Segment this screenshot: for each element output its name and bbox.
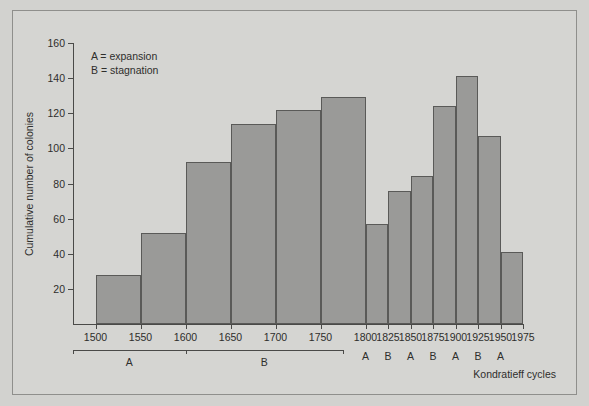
- y-tick-label: 60: [53, 213, 65, 225]
- x-tick-mark-1900: [456, 324, 457, 329]
- bar-1875: [433, 106, 456, 324]
- cycle-bracket-end: [343, 350, 344, 354]
- x-tick-label-1500: 1500: [84, 331, 107, 343]
- x-tick-label-1850: 1850: [399, 331, 422, 343]
- bar-1800: [366, 224, 389, 324]
- x-tick-mark-1500: [96, 324, 97, 329]
- cycle-bracket-label-A: A: [126, 356, 133, 368]
- x-tick-mark-1650: [231, 324, 232, 329]
- x-tick-label-1750: 1750: [309, 331, 332, 343]
- bar-1650: [231, 124, 276, 324]
- y-tick-mark: [68, 184, 73, 185]
- y-tick-mark: [68, 148, 73, 149]
- x-tick-mark-1950: [501, 324, 502, 329]
- bar-1925: [478, 136, 501, 324]
- x-tick-mark-1825: [388, 324, 389, 329]
- x-tick-mark-1800: [366, 324, 367, 329]
- y-tick-mark: [68, 254, 73, 255]
- y-tick-mark: [68, 113, 73, 114]
- x-tick-label-1600: 1600: [174, 331, 197, 343]
- cycle-letter-1800: A: [362, 350, 369, 362]
- y-axis-line: [73, 43, 74, 324]
- cycle-bracket-B: [186, 350, 344, 351]
- chart-figure: A = expansion B = stagnation Cumulative …: [12, 10, 577, 395]
- bar-1850: [411, 176, 434, 324]
- y-tick-label: 40: [53, 248, 65, 260]
- bar-1500: [96, 275, 141, 324]
- cycle-letter-1950: A: [497, 350, 504, 362]
- y-tick-label: 160: [47, 37, 65, 49]
- cycle-letter-1825: B: [384, 350, 391, 362]
- cycle-bracket-end: [186, 350, 187, 354]
- x-tick-label-1825: 1825: [376, 331, 399, 343]
- x-tick-mark-1550: [141, 324, 142, 329]
- y-tick-label: 120: [47, 107, 65, 119]
- plot-area: Cumulative number of colonies 2040608010…: [73, 43, 523, 324]
- x-tick-label-1900: 1900: [444, 331, 467, 343]
- y-tick-label: 80: [53, 178, 65, 190]
- y-tick-label: 140: [47, 72, 65, 84]
- x-tick-mark-1700: [276, 324, 277, 329]
- cycle-letter-1925: B: [474, 350, 481, 362]
- cycle-bracket-label-B: B: [261, 356, 268, 368]
- y-tick-label: 100: [47, 142, 65, 154]
- x-axis-title: Kondratieff cycles: [473, 368, 556, 380]
- y-tick-mark: [68, 78, 73, 79]
- x-tick-label-1650: 1650: [219, 331, 242, 343]
- y-tick-mark: [68, 219, 73, 220]
- bar-1750: [321, 97, 366, 324]
- x-tick-mark-1875: [433, 324, 434, 329]
- x-tick-label-1550: 1550: [129, 331, 152, 343]
- bar-1550: [141, 233, 186, 324]
- x-tick-label-1950: 1950: [489, 331, 512, 343]
- x-tick-label-1925: 1925: [466, 331, 489, 343]
- x-tick-mark-1925: [478, 324, 479, 329]
- bar-1700: [276, 110, 321, 324]
- x-tick-mark-1750: [321, 324, 322, 329]
- x-tick-mark-1975: [523, 324, 524, 329]
- cycle-letter-1900: A: [452, 350, 459, 362]
- y-axis-title: Cumulative number of colonies: [23, 111, 35, 255]
- y-tick-mark: [68, 43, 73, 44]
- cycle-bracket-end: [73, 350, 74, 354]
- x-tick-label-1700: 1700: [264, 331, 287, 343]
- y-tick-label: 20: [53, 283, 65, 295]
- bar-1900: [456, 76, 479, 324]
- cycle-bracket-A: [73, 350, 186, 351]
- bar-1825: [388, 191, 411, 324]
- bar-1600: [186, 162, 231, 324]
- y-tick-mark: [68, 289, 73, 290]
- x-tick-label-1875: 1875: [421, 331, 444, 343]
- x-tick-label-1975: 1975: [511, 331, 534, 343]
- bar-1950: [501, 252, 524, 324]
- cycle-letter-1850: A: [407, 350, 414, 362]
- cycle-letter-1875: B: [429, 350, 436, 362]
- x-tick-mark-1600: [186, 324, 187, 329]
- x-tick-mark-1850: [411, 324, 412, 329]
- x-tick-label-1800: 1800: [354, 331, 377, 343]
